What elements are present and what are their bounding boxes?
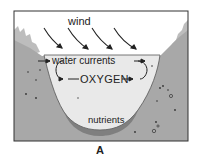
water-currents-label: water currents: [52, 56, 115, 66]
oxygen-label: OXYGEN: [80, 74, 129, 85]
nutrients-label: nutrients: [88, 115, 124, 125]
lake-diagram: wind water currents OXYGEN nutrients A: [0, 0, 198, 162]
wind-label: wind: [68, 16, 91, 27]
panel-label: A: [96, 145, 104, 156]
